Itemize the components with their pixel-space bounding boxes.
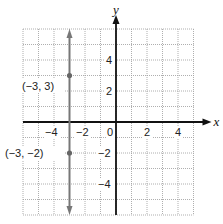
y-axis-label: y: [111, 2, 119, 17]
x-axis-label: x: [213, 114, 220, 129]
x-axis-arrow-icon: [203, 119, 212, 126]
coordinate-plane: xy−4−202442−2−4(−3, 3)(−3, −2): [0, 0, 223, 224]
y-tick-label: 4: [106, 54, 112, 66]
point-label: (−3, −2): [5, 147, 44, 159]
y-tick-label: 2: [106, 85, 112, 97]
point-label: (−3, 3): [22, 80, 54, 92]
x-tick-label: −2: [76, 126, 89, 138]
x-tick-label: −4: [45, 126, 58, 138]
axes: [23, 15, 212, 215]
x-tick-label: 4: [175, 126, 181, 138]
tick-labels: xy−4−202442−2−4(−3, 3)(−3, −2): [3, 2, 220, 190]
y-tick-label: −2: [98, 147, 111, 159]
data-point: [67, 150, 72, 155]
y-tick-label: −4: [98, 178, 111, 190]
x-tick-label: 0: [107, 126, 113, 138]
line-arrow-down-icon: [67, 206, 73, 215]
data-point: [67, 73, 72, 78]
line-arrow-up-icon: [67, 29, 73, 38]
x-tick-label: 2: [144, 126, 150, 138]
